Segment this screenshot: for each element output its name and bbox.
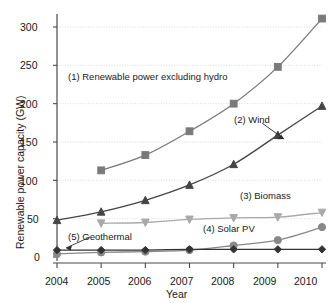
plot-area	[0, 0, 331, 303]
geothermal-leader-line	[66, 237, 90, 248]
series-layer	[53, 15, 326, 257]
series-4-marker-5	[274, 246, 281, 253]
series-4-marker-6	[318, 246, 325, 253]
series-0-marker-4	[274, 63, 281, 70]
series-0-marker-3	[230, 100, 237, 107]
series-0-marker-0	[98, 167, 105, 174]
series-line-2	[101, 213, 322, 224]
series-0-marker-5	[319, 15, 326, 22]
series-3-marker-6	[318, 224, 325, 231]
renewable-capacity-line-chart: Renewable power capacity (GW) 300 250 20…	[0, 0, 331, 303]
series-0-marker-2	[186, 128, 193, 135]
series-3-marker-5	[274, 237, 281, 244]
gridlines	[57, 27, 322, 219]
series-1-marker-6	[318, 102, 326, 109]
axis-lines	[53, 14, 326, 263]
series-line-1	[57, 106, 322, 220]
series-1-marker-4	[230, 160, 238, 167]
series-line-0	[101, 19, 322, 171]
series-0-marker-1	[142, 152, 149, 159]
series-1-marker-3	[186, 181, 194, 188]
